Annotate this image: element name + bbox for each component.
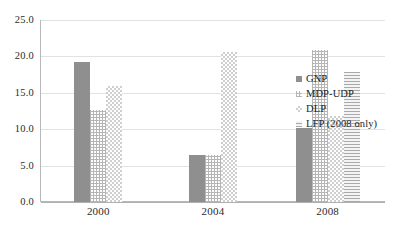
bar-group: [41, 20, 156, 202]
chart-legend: GNPMDP-UDPDLPLFP (2008 only): [296, 73, 377, 130]
legend-label: MDP-UDP: [306, 88, 354, 100]
y-axis-tick-label: 25.0: [0, 15, 34, 26]
legend-item: GNP: [296, 73, 377, 85]
bar: [189, 155, 205, 202]
bar-group-inner: [74, 20, 122, 202]
legend-label: DLP: [306, 103, 326, 115]
y-axis-tick-label: 0.0: [0, 197, 34, 208]
x-axis-tick-label: 2008: [270, 205, 385, 218]
bar: [221, 52, 237, 202]
legend-label: LFP (2008 only): [306, 118, 377, 130]
legend-swatch-icon: [296, 91, 302, 97]
gridline: [41, 202, 385, 203]
bar: [205, 155, 221, 202]
bar: [296, 128, 312, 202]
legend-swatch-icon: [296, 121, 302, 127]
y-axis-tick-label: 15.0: [0, 88, 34, 99]
y-axis-tick-label: 10.0: [0, 124, 34, 135]
bar-chart: 25.020.015.010.05.00.0 200020042008 GNPM…: [0, 0, 415, 236]
legend-item: DLP: [296, 103, 377, 115]
bar: [106, 86, 122, 202]
bar-group-inner: [189, 20, 237, 202]
x-axis: 200020042008: [41, 205, 385, 218]
legend-swatch-icon: [296, 106, 302, 112]
x-axis-tick-label: 2000: [41, 205, 156, 218]
bar: [74, 62, 90, 202]
x-axis-tick-label: 2004: [156, 205, 271, 218]
legend-label: GNP: [306, 73, 327, 85]
bar: [90, 110, 106, 202]
y-axis-tick-label: 20.0: [0, 51, 34, 62]
legend-swatch-icon: [296, 76, 302, 82]
y-axis-tick-label: 5.0: [0, 161, 34, 172]
legend-item: MDP-UDP: [296, 88, 377, 100]
bar-group: [156, 20, 271, 202]
legend-item: LFP (2008 only): [296, 118, 377, 130]
